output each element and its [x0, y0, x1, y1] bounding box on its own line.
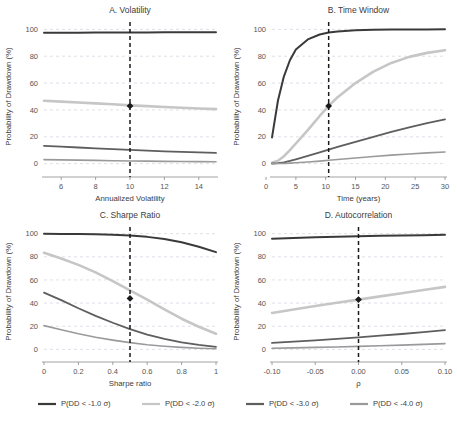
y-tick-label: 60 — [258, 79, 266, 88]
series-line — [272, 29, 445, 137]
y-tick-label: 80 — [30, 52, 38, 61]
y-tick-label: 60 — [30, 79, 38, 88]
x-tick-label: 20 — [381, 182, 389, 191]
legend-label: P(DD < -1.0 σ) — [61, 399, 111, 408]
y-tick-label: 20 — [30, 322, 38, 331]
x-tick-label: -0.05 — [307, 367, 324, 376]
x-tick-label: 0.4 — [108, 367, 118, 376]
chart-panel-volatility: A. Volatility020406080100Probability of … — [0, 0, 228, 205]
y-tick-label: 20 — [258, 132, 266, 141]
x-tick-label: 0 — [264, 182, 268, 191]
y-tick-label: 80 — [258, 52, 266, 61]
x-tick-label: 0.05 — [394, 367, 409, 376]
y-axis-label: Probability of Drawdown (%) — [232, 47, 241, 146]
x-tick-label: 8 — [94, 182, 98, 191]
y-axis-label: Probability of Drawdown (%) — [232, 242, 241, 341]
y-tick-label: 100 — [253, 25, 266, 34]
y-tick-label: 0 — [34, 159, 38, 168]
x-tick-label: 25 — [411, 182, 419, 191]
y-axis-label: Probability of Drawdown (%) — [4, 242, 13, 341]
panel-title: B. Time Window — [328, 5, 390, 15]
x-tick-label: -0.10 — [263, 367, 280, 376]
x-tick-label: 0.10 — [438, 367, 453, 376]
y-tick-label: 100 — [253, 229, 266, 238]
y-tick-label: 80 — [258, 252, 266, 261]
series-line — [44, 160, 216, 162]
x-tick-label: 0.2 — [73, 367, 83, 376]
panel-title: A. Volatility — [109, 5, 151, 15]
x-tick-label: 14 — [195, 182, 203, 191]
x-tick-label: 0.8 — [176, 367, 186, 376]
y-tick-label: 40 — [30, 106, 38, 115]
y-tick-label: 60 — [30, 276, 38, 285]
panel-title: C. Sharpe Ratio — [100, 210, 161, 220]
x-axis-label: Sharpe ratio — [109, 379, 152, 388]
x-tick-label: 6 — [59, 182, 63, 191]
legend-label: P(DD < -4.0 σ) — [373, 399, 423, 408]
x-tick-label: 5 — [294, 182, 298, 191]
x-tick-label: 10 — [126, 182, 134, 191]
panel-title: D. Autocorrelation — [325, 210, 393, 220]
x-tick-label: 0.00 — [351, 367, 366, 376]
y-tick-label: 0 — [262, 345, 266, 354]
y-tick-label: 20 — [258, 322, 266, 331]
legend-label: P(DD < -3.0 σ) — [269, 399, 319, 408]
x-axis-label: Annualized Volatility — [95, 194, 164, 203]
y-tick-label: 40 — [258, 299, 266, 308]
x-tick-label: 10 — [322, 182, 330, 191]
chart-panel-sharpe-ratio: C. Sharpe Ratio020406080100Probability o… — [0, 205, 228, 390]
x-tick-label: 0 — [42, 367, 46, 376]
x-tick-label: 15 — [351, 182, 359, 191]
chart-panel-autocorrelation: D. Autocorrelation020406080100Probabilit… — [228, 205, 457, 390]
x-tick-label: 30 — [441, 182, 449, 191]
baseline-marker — [127, 102, 134, 109]
x-axis-label: ρ — [356, 379, 361, 388]
y-tick-label: 60 — [258, 276, 266, 285]
x-tick-label: 12 — [160, 182, 168, 191]
y-tick-label: 100 — [25, 229, 38, 238]
chart-panel-time-window: B. Time Window020406080100Probability of… — [228, 0, 457, 205]
y-tick-label: 0 — [34, 345, 38, 354]
y-tick-label: 20 — [30, 132, 38, 141]
baseline-marker — [355, 296, 362, 303]
series-line — [272, 50, 445, 163]
multi-panel-figure: A. Volatility020406080100Probability of … — [0, 0, 457, 425]
x-tick-label: 1 — [214, 367, 218, 376]
y-tick-label: 40 — [258, 106, 266, 115]
x-axis-label: Time (years) — [337, 194, 381, 203]
x-tick-label: 0.6 — [142, 367, 152, 376]
y-tick-label: 100 — [25, 25, 38, 34]
y-axis-label: Probability of Drawdown (%) — [4, 47, 13, 146]
y-tick-label: 80 — [30, 252, 38, 261]
y-tick-label: 40 — [30, 299, 38, 308]
legend-label: P(DD < -2.0 σ) — [165, 399, 215, 408]
figure-legend: P(DD < -1.0 σ)P(DD < -2.0 σ)P(DD < -3.0 … — [0, 390, 457, 425]
y-tick-label: 0 — [262, 159, 266, 168]
baseline-marker — [127, 295, 134, 302]
